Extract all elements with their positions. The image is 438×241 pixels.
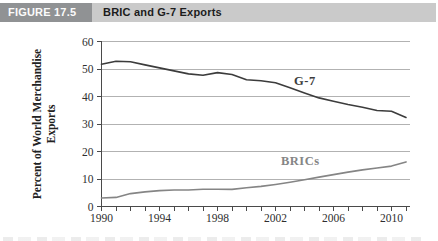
y-tick-label: 50	[82, 63, 94, 75]
y-tick-label: 0	[88, 201, 94, 213]
g7-series-label: G-7	[294, 74, 316, 88]
y-tick-label: 10	[82, 173, 94, 185]
x-tick-label: 2002	[264, 212, 287, 224]
exports-line-chart: 0102030405060199019941998200220062010Per…	[0, 0, 438, 241]
x-tick-label: 2010	[380, 212, 403, 224]
y-tick-label: 40	[82, 91, 94, 103]
x-tick-label: 1994	[148, 212, 171, 224]
brics-line	[102, 162, 407, 198]
y-tick-label: 20	[82, 146, 94, 158]
y-axis-title-line1: Percent of World Merchandise	[31, 49, 43, 199]
x-tick-label: 2006	[322, 212, 345, 224]
x-tick-label: 1990	[90, 212, 113, 224]
x-tick-label: 1998	[206, 212, 229, 224]
y-axis-title-line2: Exports	[45, 104, 58, 144]
caption-cutoff-remnant	[3, 237, 424, 241]
brics-series-label: BRICs	[281, 154, 320, 168]
figure-panel: FIGURE 17.5 BRIC and G-7 Exports 0102030…	[0, 0, 438, 241]
y-tick-label: 30	[82, 118, 94, 130]
y-tick-label: 60	[82, 36, 94, 48]
g7-line	[102, 61, 407, 117]
